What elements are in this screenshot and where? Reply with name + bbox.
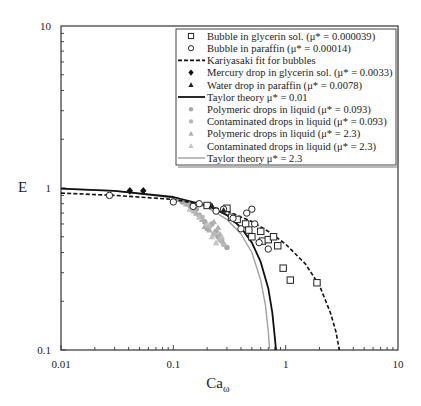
legend-label: Contaminated drops in liquid (μ* = 2.3) [207,141,377,153]
y-axis-title: E [18,179,27,195]
x-tick-label: 0.01 [51,358,70,370]
x-tick-label: 1 [283,358,289,370]
legend-label: Polymeric drops in liquid (μ* = 2.3) [207,128,361,140]
x-axis-title: Caω [206,375,230,394]
legend-item: Polymeric drops in liquid (μ* = 2.3) [188,128,360,140]
legend-item: Bubble in paraffin (μ* = 0.00014) [188,43,351,55]
legend-label: Contaminated drops in liquid (μ* = 0.093… [207,116,387,128]
legend: Bubble in glycerin sol. (μ* = 0.000039)B… [176,29,398,167]
legend-marker-icon [188,33,193,38]
legend-item: Contaminated drops in liquid (μ* = 2.3) [188,141,376,153]
legend-marker-icon [189,107,193,111]
legend-item: Mercury drop in glycerin sol. (μ* = 0.00… [188,67,393,79]
y-tick-label: 1 [46,182,52,194]
y-tick-label: 0.1 [37,344,51,356]
legend-marker-icon [189,119,193,123]
legend-label: Kariyasaki fit for bubbles [207,55,316,66]
chart: 0.010.1110 0.1110 Bubble in glycerin sol… [0,0,421,406]
legend-label: Mercury drop in glycerin sol. (μ* = 0.00… [207,67,393,79]
legend-item: Water drop in paraffin (μ* = 0.0078) [188,80,362,92]
legend-label: Polymeric drops in liquid (μ* = 0.093) [207,104,371,116]
legend-item: Polymeric drops in liquid (μ* = 0.093) [189,104,371,116]
legend-label: Water drop in paraffin (μ* = 0.0078) [207,80,363,92]
x-axis-ticks: 0.010.1110 [51,345,404,370]
legend-item: Bubble in glycerin sol. (μ* = 0.000039) [188,31,375,43]
legend-marker-icon [188,46,193,51]
y-tick-label: 10 [40,20,52,32]
legend-label: Taylor theory μ* = 0.01 [207,92,308,103]
series-10 [61,189,270,350]
legend-label: Bubble in paraffin (μ* = 0.00014) [207,43,351,55]
x-tick-label: 0.1 [166,358,180,370]
legend-label: Taylor theory μ* = 2.3 [207,153,302,164]
legend-label: Bubble in glycerin sol. (μ* = 0.000039) [207,31,376,43]
data-series [61,187,339,350]
x-tick-label: 10 [393,358,405,370]
legend-item: Contaminated drops in liquid (μ* = 0.093… [189,116,387,128]
